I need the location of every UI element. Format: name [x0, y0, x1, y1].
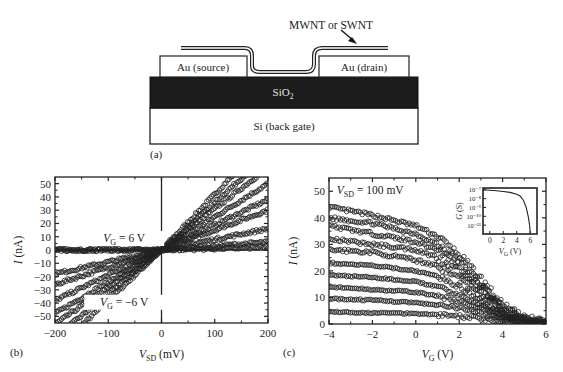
inset-x-tick-label: 2 [501, 236, 505, 245]
inset-y-tick-label: 10⁻¹¹ [467, 222, 481, 229]
inset-y-tick-label: 10⁻¹⁰ [467, 213, 482, 220]
figure-canvas: MWNT or SWNT Au (source) Au (drain) SiO2… [0, 0, 563, 372]
y-tick-label: 30 [40, 204, 52, 216]
y-tick-label: −30 [34, 284, 52, 296]
y-tick-label: 20 [314, 265, 326, 277]
panel-a-schematic: MWNT or SWNT Au (source) Au (drain) SiO2… [150, 19, 418, 161]
y-tick-label: 20 [40, 217, 52, 229]
drain-label: Au (drain) [341, 61, 387, 74]
inset-y-tick-label: 10⁻⁸ [469, 195, 482, 202]
x-tick-label: 100 [207, 327, 224, 339]
panel-a-label: (a) [150, 148, 163, 161]
inset-x-tick-label: 4 [515, 236, 519, 245]
x-tick-label: 2 [456, 328, 462, 340]
inset-conductance-plot: 024610⁻⁷10⁻⁸10⁻⁹10⁻¹⁰10⁻¹¹VG (V)G (S) [455, 186, 538, 257]
source-label: Au (source) [177, 61, 230, 74]
y-tick-label: 40 [314, 212, 326, 224]
y-tick-label: 40 [40, 191, 52, 203]
y-tick-label: 50 [314, 185, 326, 197]
x-tick-label: −100 [97, 327, 120, 339]
x-tick-label: 4 [500, 328, 506, 340]
gate-label: Si (back gate) [253, 120, 314, 133]
panel-b-label: (b) [10, 346, 23, 359]
inset-x-tick-label: 0 [488, 236, 492, 245]
y-tick-label: −20 [34, 271, 52, 283]
y-axis-label: I (nA) [287, 237, 300, 267]
y-tick-label: −40 [34, 297, 52, 309]
x-tick-label: 6 [543, 328, 549, 340]
x-axis-label: VG (V) [422, 348, 454, 363]
y-tick-label: 10 [314, 291, 326, 303]
inset-x-axis-label: VG (V) [499, 247, 522, 257]
inset-y-tick-label: 10⁻⁹ [469, 204, 482, 211]
x-tick-label: 0 [159, 327, 165, 339]
y-tick-label: 0 [46, 244, 52, 256]
panel-c-label: (c) [283, 346, 296, 359]
y-tick-label: −50 [34, 310, 52, 322]
x-tick-label: −2 [367, 328, 379, 340]
y-tick-label: −10 [34, 257, 52, 269]
inset-y-axis-label: G (S) [455, 202, 464, 220]
x-tick-label: 0 [413, 328, 419, 340]
y-axis-label: I (nA) [12, 236, 25, 266]
panel-b-iv-plot: −200−100010020050403020100−10−20−30−40−5… [12, 136, 277, 363]
panel-c-ivg-plot: −4−2024601020304050VSD = 100 mVVG (V)I (… [287, 178, 549, 363]
inset-y-tick-label: 10⁻⁷ [469, 186, 481, 193]
x-tick-label: 200 [260, 327, 277, 339]
inset-x-tick-label: 6 [528, 236, 532, 245]
y-tick-label: 0 [320, 318, 326, 330]
y-tick-label: 30 [314, 238, 326, 250]
y-tick-label: 50 [40, 178, 52, 190]
y-tick-label: 10 [40, 231, 52, 243]
arrow-head-icon [348, 37, 357, 44]
x-axis-label: VSD (mV) [139, 348, 184, 363]
nanotube-label: MWNT or SWNT [289, 19, 373, 31]
vsd-annotation: VSD = 100 mV [337, 184, 405, 199]
x-tick-label: −200 [44, 327, 67, 339]
